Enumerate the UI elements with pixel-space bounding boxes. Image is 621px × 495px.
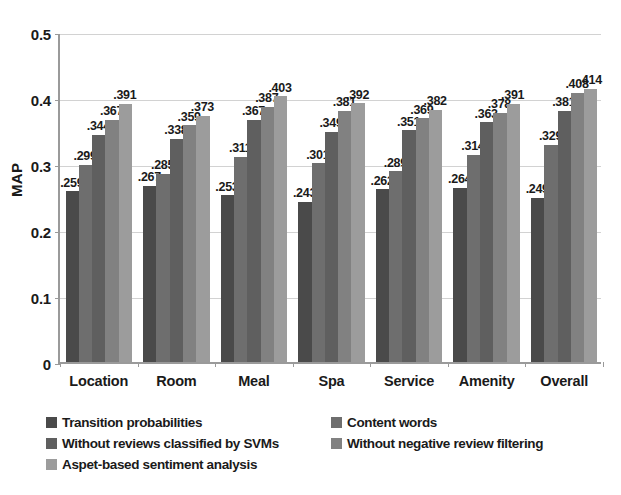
bar-value-label: .414 — [579, 74, 602, 87]
x-tick-mark — [293, 362, 294, 367]
x-tick-label: Amenity — [459, 373, 515, 389]
y-axis-title: MAP — [8, 163, 25, 197]
legend-entry[interactable]: Content words — [331, 415, 437, 430]
bar-fill — [544, 145, 557, 362]
bar-fill — [66, 191, 79, 362]
bar-group-bars: .259.299.344.367.391 — [66, 34, 132, 362]
x-tick-mark — [370, 362, 371, 367]
bar-group: .259.299.344.367.391Location — [66, 34, 132, 362]
bar-group: .264.314.363.378.391Amenity — [453, 34, 519, 362]
bar-fill — [105, 120, 118, 362]
legend-swatch-icon — [46, 438, 57, 449]
legend-label: Without reviews classified by SVMs — [62, 436, 279, 451]
bar-group: .253.311.367.387.403Meal — [221, 34, 287, 362]
bar-fill — [376, 189, 389, 362]
bar-value-label: .391 — [113, 89, 136, 102]
legend-swatch-icon — [46, 459, 57, 470]
x-tick-label: Overall — [540, 373, 588, 389]
x-tick-label: Location — [69, 373, 128, 389]
bar-fill — [480, 122, 493, 362]
bar-fill — [234, 157, 247, 362]
y-tick-mark — [55, 232, 60, 233]
legend-swatch-icon — [46, 417, 57, 428]
bar-group: .249.329.381.408.414Overall — [531, 34, 597, 362]
bar-fill — [531, 198, 544, 362]
bar-fill — [453, 188, 466, 362]
bar-fill — [312, 163, 325, 362]
bar-fill — [584, 89, 597, 362]
x-tick-label: Service — [384, 373, 434, 389]
bar-fill — [143, 186, 156, 362]
bar-fill — [79, 165, 92, 362]
bar-fill — [92, 135, 105, 362]
bar-fill — [338, 111, 351, 362]
bar-fill — [467, 155, 480, 362]
bar-fill — [119, 104, 132, 362]
chart-legend: Transition probabilitiesContent wordsWit… — [46, 412, 591, 475]
bar-group: .243.301.349.381.392Spa — [298, 34, 364, 362]
bar-group: .267.285.338.359.373Room — [143, 34, 209, 362]
x-tick-mark — [603, 362, 604, 367]
x-tick-mark — [60, 362, 61, 367]
bar-fill — [156, 174, 169, 362]
legend-swatch-icon — [331, 438, 342, 449]
bar-group-bars: .264.314.363.378.391 — [453, 34, 519, 362]
legend-row: Without reviews classified by SVMsWithou… — [46, 433, 591, 454]
bar-value-label: .391 — [501, 89, 524, 102]
bar-group-bars: .249.329.381.408.414 — [531, 34, 597, 362]
x-tick-label: Meal — [238, 373, 269, 389]
bar-fill — [389, 171, 402, 362]
y-tick-label: 0 — [43, 356, 51, 373]
legend-entry[interactable]: Without negative review filtering — [331, 436, 543, 451]
bar-fill — [170, 139, 183, 362]
bar-fill — [402, 130, 415, 362]
y-tick-label: 0.2 — [31, 224, 51, 241]
legend-swatch-icon — [331, 417, 342, 428]
bar-fill — [558, 111, 571, 362]
legend-label: Aspet-based sentiment analysis — [62, 457, 257, 472]
bar-chart-figure: MAP 0.50.40.30.20.10 .259.299.344.367.39… — [0, 0, 621, 495]
bar-group-bars: .267.285.338.359.373 — [143, 34, 209, 362]
y-tick-label: 0.4 — [31, 92, 51, 109]
bar-value-label: .392 — [346, 89, 369, 102]
legend-row: Transition probabilitiesContent words — [46, 412, 591, 433]
y-tick-mark — [55, 166, 60, 167]
bar-fill — [351, 103, 364, 362]
x-tick-mark — [215, 362, 216, 367]
bar-fill — [261, 107, 274, 362]
bar-fill — [429, 110, 442, 362]
bar-group: .262.289.351.369.382Service — [376, 34, 442, 362]
x-tick-mark — [525, 362, 526, 367]
y-tick-label: 0.3 — [31, 158, 51, 175]
x-tick-label: Spa — [318, 373, 344, 389]
y-tick-label: 0.5 — [31, 26, 51, 43]
legend-entry[interactable]: Aspet-based sentiment analysis — [46, 457, 331, 472]
legend-label: Without negative review filtering — [347, 436, 543, 451]
plot-area: 0.50.40.30.20.10 .259.299.344.367.391Loc… — [58, 34, 601, 364]
legend-entry[interactable]: Without reviews classified by SVMs — [46, 436, 331, 451]
y-tick-mark — [55, 298, 60, 299]
bar-value-label: .382 — [424, 95, 447, 108]
legend-row: Aspet-based sentiment analysis — [46, 454, 591, 475]
legend-label: Content words — [347, 415, 437, 430]
x-tick-label: Room — [156, 373, 196, 389]
bar-fill — [274, 96, 287, 362]
bar-group-bars: .253.311.367.387.403 — [221, 34, 287, 362]
bar-fill — [325, 132, 338, 362]
bar-fill — [196, 116, 209, 362]
y-tick-mark — [55, 34, 60, 35]
bar-value-label: .403 — [268, 82, 291, 95]
bar-value-label: .373 — [191, 101, 214, 114]
bar-group-bars: .243.301.349.381.392 — [298, 34, 364, 362]
legend-entry[interactable]: Transition probabilities — [46, 415, 331, 430]
bar-fill — [298, 202, 311, 362]
legend-label: Transition probabilities — [62, 415, 202, 430]
x-tick-mark — [138, 362, 139, 367]
bar-fill — [183, 125, 196, 362]
y-tick-label: 0.1 — [31, 290, 51, 307]
bar-fill — [221, 195, 234, 362]
bar-fill — [571, 93, 584, 362]
bar-fill — [416, 118, 429, 362]
bar-group-bars: .262.289.351.369.382 — [376, 34, 442, 362]
y-tick-mark — [55, 100, 60, 101]
